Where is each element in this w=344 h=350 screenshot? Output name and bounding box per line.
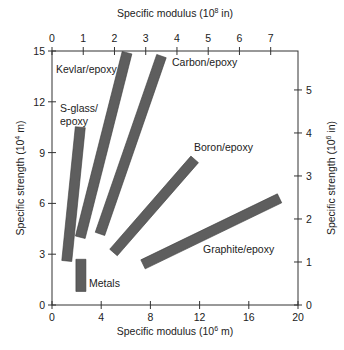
bar-s-glass-epoxy (62, 127, 85, 262)
x-top-tick-label: 2 (112, 32, 118, 44)
y-right-tick-label: 1 (306, 256, 312, 268)
label-graphite: Graphite/epoxy (203, 243, 275, 255)
y-tick-label: 3 (39, 248, 45, 260)
y-tick-label: 9 (39, 147, 45, 159)
x-tick-label: 8 (147, 311, 153, 323)
y-tick-label: 12 (33, 96, 45, 108)
label-sglass-line1: S-glass/ (60, 102, 98, 114)
x-tick-label: 20 (292, 311, 304, 323)
y-axis-title-left: Specific strength (104 m) (14, 121, 26, 236)
y-tick-label: 15 (33, 45, 45, 57)
y-right-tick-label: 0 (306, 299, 312, 311)
x-top-tick-label: 6 (237, 32, 243, 44)
y-tick-label: 6 (39, 197, 45, 209)
x-tick-label: 16 (243, 311, 255, 323)
x-tick-label: 4 (98, 311, 104, 323)
x-tick-label: 12 (194, 311, 206, 323)
label-boron: Boron/epoxy (194, 141, 254, 153)
x-top-tick-label: 1 (80, 32, 86, 44)
bars-group (62, 51, 282, 291)
x-top-tick-label: 4 (174, 32, 180, 44)
chart: 0481216200369121501234567012345 Specific… (0, 0, 344, 350)
label-sglass-line2: epoxy (60, 115, 89, 127)
label-metals: Metals (89, 277, 120, 289)
bar-metals (76, 259, 86, 291)
x-top-tick-label: 3 (143, 32, 149, 44)
x-axis-title-bottom: Specific modulus (106 m) (117, 325, 234, 337)
y-tick-label: 0 (39, 299, 45, 311)
x-top-tick-label: 7 (268, 32, 274, 44)
y-right-tick-label: 2 (306, 213, 312, 225)
bar-graphite-epoxy (141, 194, 282, 269)
y-right-tick-label: 3 (306, 170, 312, 182)
x-top-tick-label: 0 (49, 32, 55, 44)
x-tick-label: 0 (49, 311, 55, 323)
label-kevlar: Kevlar/epoxy (56, 63, 117, 75)
y-right-tick-label: 5 (306, 84, 312, 96)
y-axis-title-right: Specific strength (106 in) (325, 121, 337, 235)
label-carbon: Carbon/epoxy (172, 56, 238, 68)
y-right-tick-label: 4 (306, 127, 312, 139)
x-axis-title-top: Specific modulus (108 in) (117, 7, 233, 19)
x-top-tick-label: 5 (205, 32, 211, 44)
